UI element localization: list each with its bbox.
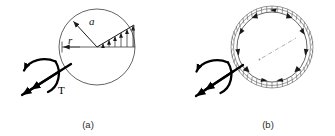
- tube-wall-ticks-b: [231, 6, 313, 88]
- tube-mid-circle-b: [234, 9, 311, 86]
- figure-root: a r: [0, 0, 335, 136]
- panel-b-group: (b): [196, 6, 313, 130]
- shear-stress-arrows-a: [103, 26, 133, 47]
- caption-panel-b: (b): [262, 119, 274, 130]
- stress-distribution-hypotenuse: [97, 25, 134, 47]
- torque-arc-b-upper: [197, 60, 229, 71]
- radius-r-label: r: [68, 34, 73, 46]
- center-axis-dashdot-b: [262, 38, 296, 58]
- torque-label-a: T: [58, 84, 65, 96]
- torque-arc-a-upper: [24, 59, 56, 70]
- radius-a-label: a: [89, 15, 95, 27]
- panel-a-group: a r: [22, 9, 135, 130]
- torsion-figure-canvas: a r: [0, 0, 335, 136]
- center-mark-b: [259, 59, 261, 61]
- caption-panel-a: (a): [82, 119, 94, 130]
- shear-flow-arrows-b: [235, 8, 309, 81]
